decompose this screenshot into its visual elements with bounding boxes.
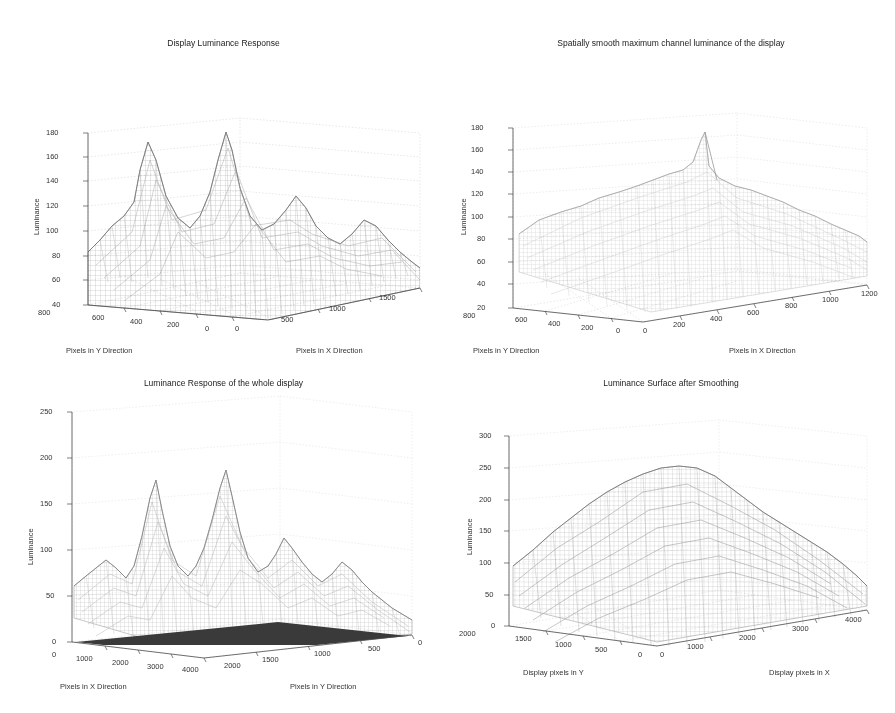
x-tick-label: 0 <box>52 650 56 659</box>
x-tick-label: 0 <box>643 326 647 335</box>
plot-luminance-response-whole-display: Luminance Response of the whole display <box>0 370 447 713</box>
z-axis-ticks <box>67 412 72 642</box>
y-tick-label: 500 <box>368 644 381 653</box>
x-axis-label: Pixels in X Direction <box>60 682 127 691</box>
z-tick-label: 120 <box>471 189 484 198</box>
y-tick-label: 1000 <box>555 640 572 649</box>
x-tick-label: 800 <box>785 301 798 310</box>
surface-mesh <box>88 132 420 320</box>
z-axis-ticks <box>508 128 513 308</box>
y-tick-label: 0 <box>418 638 422 647</box>
y-tick-label: 600 <box>92 313 105 322</box>
z-tick-label: 60 <box>477 257 485 266</box>
y-axis-label: Pixels in Y Direction <box>473 346 539 355</box>
y-tick-label: 400 <box>130 317 143 326</box>
y-tick-label: 1500 <box>262 655 279 664</box>
z-tick-label: 140 <box>471 167 484 176</box>
z-axis-label: Luminance <box>459 198 468 235</box>
z-axis-label: Luminance <box>465 518 474 555</box>
z-tick-label: 0 <box>491 621 495 630</box>
x-tick-label: 1000 <box>687 642 704 651</box>
z-tick-label: 40 <box>52 300 60 309</box>
z-tick-label: 160 <box>471 145 484 154</box>
x-axis-label: Pixels in X Direction <box>296 346 363 355</box>
z-tick-label: 100 <box>46 226 59 235</box>
plot-display-luminance-response: Display Luminance Response <box>0 20 447 370</box>
y-tick-label: 500 <box>595 645 608 654</box>
x-tick-label: 1000 <box>76 654 93 663</box>
x-tick-label: 1200 <box>861 289 878 298</box>
z-tick-label: 100 <box>479 558 492 567</box>
plot-axes-svg <box>447 370 895 713</box>
y-tick-label: 1000 <box>314 649 331 658</box>
x-tick-label: 2000 <box>739 633 756 642</box>
x-tick-label: 2000 <box>112 658 129 667</box>
z-tick-label: 150 <box>479 526 492 535</box>
z-tick-label: 50 <box>46 591 54 600</box>
plot-title: Luminance Response of the whole display <box>0 378 447 388</box>
plot-luminance-surface-after-smoothing: Luminance Surface after Smoothing <box>447 370 895 713</box>
plot-title: Display Luminance Response <box>0 38 447 48</box>
z-tick-label: 200 <box>479 495 492 504</box>
y-tick-label: 800 <box>38 308 51 317</box>
z-tick-label: 300 <box>479 431 492 440</box>
y-tick-label: 1500 <box>515 634 532 643</box>
z-tick-label: 0 <box>52 637 56 646</box>
z-tick-label: 100 <box>40 545 53 554</box>
x-tick-label: 1500 <box>379 293 396 302</box>
y-tick-label: 0 <box>205 324 209 333</box>
y-axis-label: Display pixels in Y <box>523 668 584 677</box>
x-tick-label: 1000 <box>822 295 839 304</box>
z-tick-label: 140 <box>46 176 59 185</box>
z-tick-label: 40 <box>477 279 485 288</box>
y-axis-label: Pixels in Y Direction <box>290 682 356 691</box>
z-tick-label: 250 <box>40 407 53 416</box>
y-tick-label: 2000 <box>224 661 241 670</box>
z-tick-label: 50 <box>485 590 493 599</box>
z-axis-ticks <box>83 133 88 305</box>
x-tick-label: 4000 <box>845 615 862 624</box>
y-tick-label: 800 <box>463 311 476 320</box>
y-tick-label: 2000 <box>459 629 476 638</box>
z-tick-label: 180 <box>471 123 484 132</box>
x-axis-label: Display pixels in X <box>769 668 830 677</box>
z-tick-label: 160 <box>46 152 59 161</box>
figure-canvas: Display Luminance Response <box>0 0 895 713</box>
y-tick-label: 200 <box>167 320 180 329</box>
y-tick-label: 0 <box>616 326 620 335</box>
plot-title: Spatially smooth maximum channel luminan… <box>447 38 895 48</box>
x-axis-label: Pixels in X Direction <box>729 346 796 355</box>
x-tick-label: 3000 <box>792 624 809 633</box>
z-tick-label: 180 <box>46 128 59 137</box>
z-axis-ticks <box>504 436 509 626</box>
plot-spatially-smooth-max-channel: Spatially smooth maximum channel luminan… <box>447 20 895 370</box>
z-tick-label: 250 <box>479 463 492 472</box>
x-tick-label: 4000 <box>182 665 199 674</box>
z-tick-label: 60 <box>52 275 60 284</box>
z-tick-label: 80 <box>477 234 485 243</box>
x-tick-label: 3000 <box>147 662 164 671</box>
plot-title: Luminance Surface after Smoothing <box>447 378 895 388</box>
z-tick-label: 80 <box>52 251 60 260</box>
z-axis-label: Luminance <box>32 198 41 235</box>
x-tick-label: 400 <box>710 314 723 323</box>
x-tick-label: 200 <box>673 320 686 329</box>
z-tick-label: 200 <box>40 453 53 462</box>
y-tick-label: 200 <box>581 323 594 332</box>
x-tick-label: 0 <box>235 324 239 333</box>
x-tick-label: 600 <box>747 308 760 317</box>
y-axis-label: Pixels in Y Direction <box>66 346 132 355</box>
surface-mesh <box>519 132 867 312</box>
x-tick-label: 1000 <box>329 304 346 313</box>
y-tick-label: 400 <box>548 319 561 328</box>
y-tick-label: 0 <box>638 650 642 659</box>
z-axis-label: Luminance <box>26 528 35 565</box>
x-tick-label: 500 <box>281 315 294 324</box>
z-tick-label: 20 <box>477 303 485 312</box>
plot-axes-svg <box>0 20 447 370</box>
y-tick-label: 600 <box>515 315 528 324</box>
z-tick-label: 100 <box>471 212 484 221</box>
z-tick-label: 120 <box>46 201 59 210</box>
z-tick-label: 150 <box>40 499 53 508</box>
x-tick-label: 0 <box>660 650 664 659</box>
